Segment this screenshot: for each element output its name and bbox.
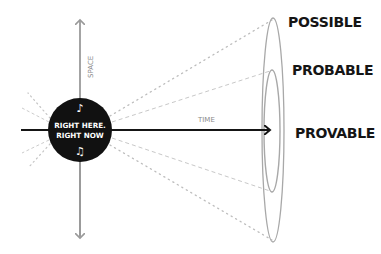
past-ray-1: [28, 93, 50, 118]
past-ray-2: [22, 108, 49, 122]
right-here-right-now-node: ♪ RIGHT HERE. RIGHT NOW ♫: [48, 98, 112, 162]
ray-possible-top: [110, 20, 272, 116]
ray-possible-bottom: [110, 145, 272, 240]
music-note-top-icon: ♪: [76, 102, 83, 115]
ray-probable-bottom: [112, 138, 270, 191]
futures-cone-diagram: SPACE TIME ♪ RIGHT HERE. RIGHT NOW ♫ POS…: [0, 0, 381, 254]
possible-label: POSSIBLE: [288, 14, 362, 30]
past-ray-4: [28, 144, 50, 168]
provable-label: PROVABLE: [295, 125, 375, 141]
center-label-line1: RIGHT HERE.: [54, 121, 106, 130]
probable-label: PROBABLE: [292, 62, 373, 78]
time-label: TIME: [197, 116, 215, 124]
past-ray-3: [22, 140, 49, 153]
ray-probable-top: [112, 71, 270, 122]
space-label: SPACE: [87, 56, 95, 78]
center-label-line2: RIGHT NOW: [56, 131, 104, 140]
music-note-bottom-icon: ♫: [75, 145, 85, 158]
